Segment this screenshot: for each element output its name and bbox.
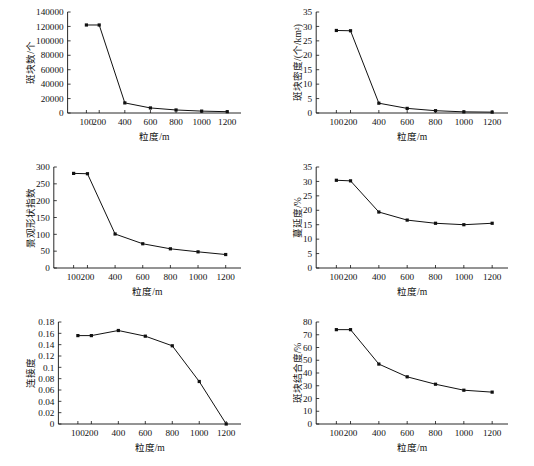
data-point-marker [491,391,494,394]
y-tick-label: 80000 [41,50,64,60]
y-tick-label: 60000 [41,65,64,75]
x-tick-label: 1000 [455,272,474,282]
data-point-marker [491,222,494,225]
chart-panel-middle-right: 0510152025303510020040060080010001200粒度/… [267,155,534,310]
y-tick-label: 0.12 [38,351,54,361]
axis-lines [316,12,508,113]
data-point-marker [72,172,75,175]
data-point-marker [169,247,172,250]
data-point-marker [462,223,465,226]
x-tick-label: 600 [400,428,414,438]
chart-panel-top-right: 0510152025303510020040060080010001200粒度/… [267,0,534,155]
y-axis-title: 景观形状指数 [25,188,36,248]
x-tick-label: 800 [165,428,179,438]
x-tick-label: 400 [372,117,386,127]
y-tick-label: 30 [303,177,313,187]
y-tick-label: 40 [303,368,313,378]
x-tick-label: 800 [169,117,183,127]
series-line [336,180,492,224]
y-tick-label: 150 [36,213,50,223]
data-point-marker [196,250,199,253]
y-axis-title: 斑块密度/(个/km²) [292,24,304,101]
x-tick-label: 600 [400,117,414,127]
data-point-marker [171,344,174,347]
data-point-marker [406,375,409,378]
data-point-marker [349,328,352,331]
data-point-marker [198,380,201,383]
y-tick-label: 0.1 [43,363,55,373]
x-tick-label: 400 [108,272,122,282]
y-tick-label: 0.02 [38,408,54,418]
x-axis-title: 粒度/m [135,442,166,453]
y-tick-label: 200 [36,196,50,206]
y-axis-title: 连接度 [25,358,36,388]
y-tick-label: 250 [36,179,50,189]
data-point-marker [76,334,79,337]
x-axis-title: 粒度/m [397,286,428,297]
y-tick-label: 5 [308,94,313,104]
data-point-marker [86,172,89,175]
x-tick-label: 200 [344,117,358,127]
data-point-marker [225,422,228,425]
x-tick-label: 100 [329,117,343,127]
y-tick-label: 0 [308,419,313,429]
y-tick-label: 0 [59,108,64,118]
y-tick-label: 5 [308,249,313,259]
y-tick-label: 10 [303,406,313,416]
x-axis-title: 粒度/m [139,131,170,142]
x-tick-label: 600 [400,272,414,282]
data-point-marker [377,362,380,365]
y-tick-label: 300 [36,162,50,172]
y-axis-title: 斑块数/个 [25,41,36,84]
data-point-marker [377,102,380,105]
y-tick-label: 30 [303,22,313,32]
data-point-marker [90,334,93,337]
x-tick-label: 1000 [190,428,209,438]
x-tick-label: 200 [81,272,95,282]
data-point-marker [200,110,203,113]
y-tick-label: 0.14 [38,340,54,350]
y-tick-label: 0 [50,419,55,429]
data-point-marker [462,389,465,392]
x-tick-label: 1200 [217,272,236,282]
data-point-marker [117,329,120,332]
axis-lines [316,322,508,424]
data-point-marker [434,109,437,112]
y-tick-label: 15 [303,220,313,230]
y-tick-label: 15 [303,65,313,75]
axis-lines [316,167,508,268]
data-point-marker [174,108,177,111]
y-tick-label: 50 [303,355,313,365]
x-tick-label: 600 [138,428,152,438]
data-point-marker [114,232,117,235]
x-tick-label: 100 [67,272,81,282]
data-point-marker [335,179,338,182]
chart-panel-bottom-left: 00.020.040.060.080.10.120.140.160.181002… [0,310,267,466]
y-tick-label: 60 [303,343,313,353]
x-tick-label: 200 [92,117,106,127]
y-tick-label: 10 [303,79,313,89]
y-tick-label: 35 [303,162,313,172]
x-tick-label: 400 [118,117,132,127]
x-tick-label: 1200 [483,272,502,282]
data-point-marker [144,335,147,338]
y-tick-label: 20000 [41,94,64,104]
y-tick-label: 70 [303,330,313,340]
y-tick-label: 0.04 [38,397,54,407]
y-tick-label: 0 [308,108,313,118]
y-tick-label: 0 [45,263,50,273]
x-tick-label: 1200 [217,428,236,438]
y-tick-label: 25 [303,191,313,201]
x-tick-label: 600 [144,117,158,127]
x-tick-label: 1200 [483,117,502,127]
series-line [336,330,492,392]
x-tick-label: 200 [84,428,98,438]
y-axis-title: 蔓延度/% [292,197,303,238]
y-tick-label: 25 [303,36,313,46]
x-tick-label: 800 [429,272,443,282]
x-tick-label: 1000 [192,117,211,127]
x-tick-label: 1000 [455,117,474,127]
y-tick-label: 100000 [36,36,64,46]
figure-grid: 0200004000060000800001000001200001400001… [0,0,534,466]
y-tick-label: 20 [303,205,313,215]
